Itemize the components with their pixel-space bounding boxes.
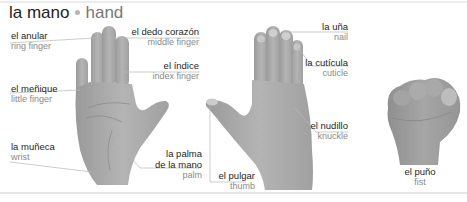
label-little-finger: el meñique little finger — [11, 83, 57, 105]
label-middle-finger: el dedo corazón middle finger — [131, 26, 199, 48]
label-ring-finger: el anular ring finger — [11, 30, 51, 52]
label-palm: la palma de la mano palm — [155, 148, 202, 181]
label-wrist: la muñeca wrist — [11, 141, 55, 163]
label-knuckle: el nudillo knuckle — [311, 120, 349, 142]
label-nail: la uña nail — [322, 21, 348, 43]
label-cuticle: la cutícula cuticle — [305, 57, 348, 79]
back-hand-image — [206, 26, 313, 190]
label-fist: el puño fist — [395, 166, 445, 188]
label-thumb: el pulgar thumb — [219, 170, 255, 192]
label-index-finger: el índice index finger — [152, 60, 199, 82]
fist-image — [388, 78, 461, 165]
